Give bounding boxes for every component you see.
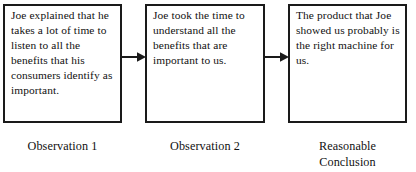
caption-observation-1: Observation 1 [3,139,122,155]
node-observation-2-text: Joe took the time to understand all the … [153,8,259,68]
node-reasonable-conclusion: The product that Joe showed us probably … [288,4,407,123]
diagram-canvas: Joe explained that he takes a lot of tim… [0,0,416,172]
node-observation-1-text: Joe explained that he takes a lot of tim… [11,8,116,97]
arrow-observation-1-to-observation-2 [122,50,146,64]
arrow-right-icon [122,50,146,64]
arrow-right-icon [265,50,289,64]
node-reasonable-conclusion-text: The product that Joe showed us probably … [296,8,401,68]
arrow-observation-2-to-reasonable-conclusion [265,50,289,64]
caption-observation-2: Observation 2 [145,139,265,155]
node-observation-1: Joe explained that he takes a lot of tim… [3,4,122,123]
caption-reasonable-conclusion: Reasonable Conclusion [280,139,415,170]
node-observation-2: Joe took the time to understand all the … [145,4,265,123]
